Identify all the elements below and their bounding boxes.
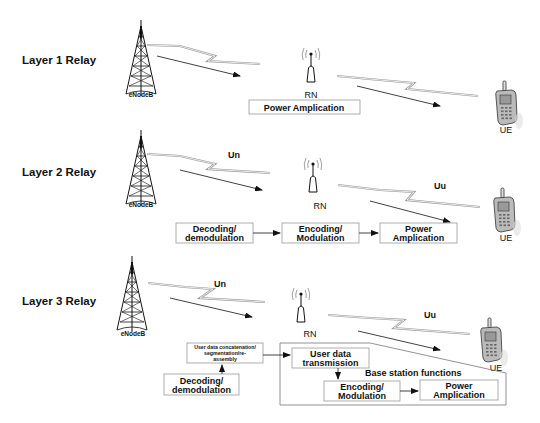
layer1-row: Layer 1 Relay eNodeB RN Power Amplicatio… — [22, 20, 523, 135]
uu-interface-label: Uu — [424, 310, 436, 320]
wireless-link — [147, 45, 260, 64]
svg-text:transmission: transmission — [302, 358, 358, 368]
relay-node-icon — [292, 288, 310, 322]
enodeb-tower-icon — [126, 20, 156, 96]
enodeb-tower-icon — [126, 130, 156, 206]
downlink-arrow — [157, 56, 240, 76]
svg-text:demodulation: demodulation — [185, 233, 244, 243]
rn-downlink-arrow — [357, 86, 440, 106]
layer2-label: Layer 2 Relay — [22, 166, 97, 178]
svg-text:Modulation: Modulation — [297, 233, 345, 243]
layer2-row: Layer 2 Relay eNodeB Un RN Uu UE Decodin… — [22, 130, 521, 243]
ue-label: UE — [500, 125, 513, 135]
enodeb-label: eNodeB — [129, 201, 154, 208]
enodeb-tower-icon — [117, 256, 147, 332]
rn-label: RN — [305, 90, 318, 100]
ue-label: UE — [500, 233, 513, 243]
layer3-row: Layer 3 Relay eNodeB Un RN Uu UE User da… — [22, 256, 508, 405]
relay-node-icon — [304, 158, 322, 192]
un-interface-label: Un — [214, 279, 226, 289]
downlink-arrow — [180, 170, 262, 190]
enodeb-label: eNodeB — [129, 91, 154, 98]
layer1-label: Layer 1 Relay — [22, 54, 97, 66]
enodeb-label: eNodeB — [121, 330, 146, 337]
rn-downlink-arrow — [358, 331, 440, 350]
base-station-functions-label: Base station functions — [365, 368, 462, 378]
uu-interface-label: Uu — [434, 181, 446, 191]
svg-text:Amplication: Amplication — [433, 390, 485, 400]
ue-phone-icon — [481, 318, 508, 366]
svg-text:demodulation: demodulation — [172, 385, 231, 395]
rn-label: RN — [314, 201, 327, 211]
svg-text:assembly: assembly — [213, 356, 237, 362]
svg-text:Amplication: Amplication — [393, 233, 445, 243]
svg-text:Decoding/: Decoding/ — [180, 376, 224, 386]
ue-phone-icon — [496, 81, 523, 129]
un-interface-label: Un — [228, 150, 240, 160]
rn-label: RN — [304, 329, 317, 339]
ue-phone-icon — [494, 188, 521, 236]
relay-diagram: Layer 1 Relay eNodeB RN Power Amplicatio… — [0, 0, 540, 423]
svg-text:Modulation: Modulation — [338, 391, 386, 401]
svg-text:Power Amplication: Power Amplication — [264, 103, 345, 113]
layer3-label: Layer 3 Relay — [22, 295, 97, 307]
rn-downlink-arrow — [370, 201, 450, 222]
relay-node-icon — [302, 48, 320, 82]
